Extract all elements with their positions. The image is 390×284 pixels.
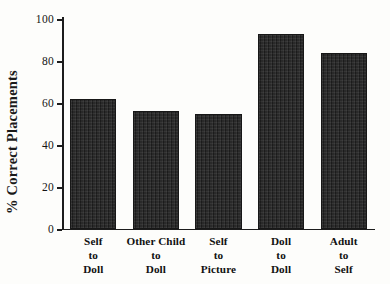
bar — [70, 99, 116, 229]
bar — [258, 34, 304, 229]
x-axis-category-label: DolltoDoll — [250, 234, 313, 277]
x-axis-category-label-line: to — [250, 248, 313, 262]
y-axis-tick-label: 40 — [42, 139, 54, 151]
y-axis-tick-label: 20 — [42, 181, 54, 193]
x-axis-category-label-line: Doll — [250, 234, 313, 248]
x-axis-category-label-line: Doll — [62, 262, 125, 276]
x-axis-category-label-line: Self — [62, 234, 125, 248]
bar-chart-figure: % Correct Placements 020406080100 Selfto… — [0, 0, 390, 284]
x-axis-category-label-line: to — [312, 248, 375, 262]
x-axis-category-label-line: to — [62, 248, 125, 262]
x-axis-category-label-line: Self — [312, 262, 375, 276]
x-axis-category-label-line: Picture — [187, 262, 250, 276]
y-axis-tick-label: 60 — [42, 97, 54, 109]
x-axis-category-label-line: Other Child — [125, 234, 188, 248]
x-axis-category-label: SelftoPicture — [187, 234, 250, 277]
bar — [133, 111, 179, 229]
y-axis-tick-label: 0 — [48, 223, 54, 235]
y-axis-ticks: 020406080100 — [0, 0, 62, 284]
plot-area — [62, 19, 375, 229]
x-axis-category-label-line: to — [187, 248, 250, 262]
x-axis-category-label-line: Self — [187, 234, 250, 248]
x-axis-category-label-line: to — [125, 248, 188, 262]
bar — [321, 53, 367, 229]
y-axis-tick-label: 100 — [36, 13, 54, 25]
x-axis-category-label-line: Doll — [250, 262, 313, 276]
x-axis-category-label: SelftoDoll — [62, 234, 125, 277]
bar — [195, 114, 241, 230]
x-axis-category-label: AdulttoSelf — [312, 234, 375, 277]
x-axis-category-label-line: Doll — [125, 262, 188, 276]
y-axis-tick-label: 80 — [42, 55, 54, 67]
x-axis-category-label: Other ChildtoDoll — [125, 234, 188, 277]
x-axis-category-label-line: Adult — [312, 234, 375, 248]
